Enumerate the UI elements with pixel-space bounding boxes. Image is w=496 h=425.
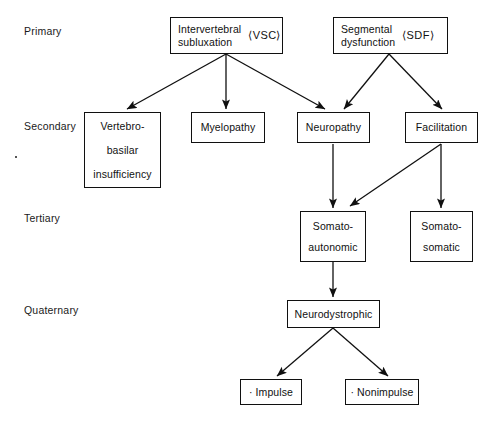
node-facilitation[interactable]: Facilitation (405, 112, 478, 143)
node-label-neuropathy: Neuropathy (303, 121, 364, 133)
node-neurodystrophic[interactable]: Neurodystrophic (287, 300, 380, 328)
stage-label-quaternary: Quaternary (24, 305, 79, 316)
node-impulse[interactable]: · Impulse (240, 379, 302, 405)
edge-neurodystrophic-to-nonimpulse (333, 328, 388, 376)
node-label-neurodystrophic: Neurodystrophic (292, 308, 376, 320)
node-neuropathy[interactable]: Neuropathy (297, 112, 370, 143)
node-label-facilitation: Facilitation (413, 121, 470, 133)
node-somato-autonomic[interactable]: Somato- autonomic (300, 211, 366, 262)
node-label-intervertebral-subluxation: Intervertebral subluxation (178, 23, 241, 48)
node-acronym-vsc: ⟨VSC⟩ (248, 29, 281, 42)
edge-sdf-to-facilitation (389, 54, 442, 109)
scan-artifact-speck (15, 156, 17, 158)
node-label-myelopathy: Myelopathy (198, 121, 259, 133)
stage-label-secondary: Secondary (24, 121, 76, 132)
node-label-segmental-dysfunction: Segmental dysfunction (341, 23, 395, 48)
node-myelopathy[interactable]: Myelopathy (191, 112, 265, 143)
edge-vsc-to-vertebrobasilar (127, 54, 226, 109)
node-vertebrobasilar-insufficiency[interactable]: Vertebro- basilar insufficiency (84, 112, 161, 188)
node-intervertebral-subluxation[interactable]: Intervertebral subluxation ⟨VSC⟩ (170, 17, 283, 54)
node-label-impulse: · Impulse (246, 386, 296, 398)
diagram-canvas: Primary Secondary Tertiary Quaternary (0, 0, 496, 425)
node-nonimpulse[interactable]: · Nonimpulse (345, 379, 419, 405)
edge-facilitation-to-somatoautonomic (350, 144, 441, 206)
node-label-vertebrobasilar-insufficiency: Vertebro- basilar insufficiency (90, 114, 154, 186)
node-segmental-dysfunction[interactable]: Segmental dysfunction ⟨SDF⟩ (333, 17, 448, 54)
node-somato-somatic[interactable]: Somato- somatic (410, 211, 473, 262)
node-label-nonimpulse: · Nonimpulse (347, 386, 416, 398)
node-label-somato-autonomic: Somato- autonomic (305, 216, 360, 258)
node-label-somato-somatic: Somato- somatic (418, 216, 464, 258)
stage-label-tertiary: Tertiary (24, 213, 60, 224)
edge-vsc-to-neuropathy (226, 54, 325, 109)
edge-sdf-to-neuropathy (344, 54, 389, 109)
edge-neurodystrophic-to-impulse (277, 328, 333, 376)
node-acronym-sdf: ⟨SDF⟩ (402, 29, 434, 42)
stage-label-primary: Primary (24, 26, 62, 37)
